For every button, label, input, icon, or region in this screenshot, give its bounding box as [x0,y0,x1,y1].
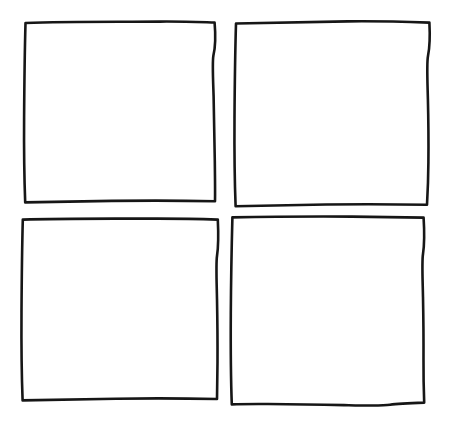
grid-cell-bottom-right[interactable] [231,217,424,406]
sketch-canvas: Hand-drawn 2x2 grid of four empty square… [0,0,450,421]
hand-drawn-grid-svg [0,0,450,421]
grid-cell-top-right[interactable] [234,21,429,206]
grid-cell-top-left[interactable] [24,22,215,203]
grid-cell-bottom-left[interactable] [21,219,218,401]
